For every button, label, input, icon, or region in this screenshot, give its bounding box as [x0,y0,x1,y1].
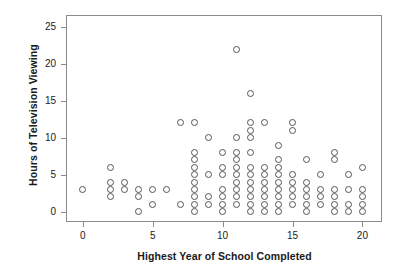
data-point [331,208,338,215]
data-point [331,156,338,163]
data-point [345,201,352,208]
data-point [247,119,254,126]
data-point [107,193,114,200]
data-point [107,186,114,193]
y-tick-label: 5 [36,170,56,180]
y-axis-label: Hours of Television Viewing [22,4,44,226]
data-point [135,208,142,215]
data-point [163,186,170,193]
data-point [303,156,310,163]
data-point [289,127,296,134]
data-point [107,164,114,171]
data-point [205,201,212,208]
data-point [233,149,240,156]
data-point [303,186,310,193]
data-point [247,127,254,134]
data-point [275,142,282,149]
data-point [317,201,324,208]
data-point [247,186,254,193]
data-point [359,193,366,200]
data-point [275,179,282,186]
data-point [275,186,282,193]
data-point [289,186,296,193]
data-point [177,201,184,208]
data-point [233,156,240,163]
y-tick-label: 20 [36,59,56,69]
data-point [359,201,366,208]
data-point [331,149,338,156]
data-point [261,186,268,193]
data-point [233,134,240,141]
data-point [261,171,268,178]
data-point [191,156,198,163]
data-point [331,186,338,193]
y-tick-mark [61,212,66,213]
x-tick-label: 20 [351,231,373,241]
data-point [149,201,156,208]
data-point [233,179,240,186]
data-point [303,193,310,200]
data-point [261,201,268,208]
data-point [219,164,226,171]
data-point [121,186,128,193]
data-point [261,164,268,171]
data-point [359,208,366,215]
data-point [233,171,240,178]
data-point [191,149,198,156]
data-point [191,179,198,186]
data-point [247,149,254,156]
data-point [261,119,268,126]
data-point [275,164,282,171]
scatter-plot-figure: Hours of Television Viewing 0510152025 0… [0,0,401,277]
data-point [261,179,268,186]
x-tick-mark [362,222,363,227]
data-point [233,46,240,53]
data-point [233,186,240,193]
x-tick-label: 0 [72,231,94,241]
data-point [233,164,240,171]
x-tick-mark [153,222,154,227]
data-point [191,201,198,208]
data-point [79,186,86,193]
data-point [135,186,142,193]
x-tick-label: 10 [212,231,234,241]
data-point [247,193,254,200]
y-tick-mark [61,138,66,139]
data-point [275,156,282,163]
data-point [191,186,198,193]
data-point [289,193,296,200]
data-point [219,186,226,193]
data-point [121,179,128,186]
y-tick-label: 0 [36,207,56,217]
data-point [191,193,198,200]
x-tick-mark [223,222,224,227]
data-point [303,208,310,215]
y-tick-mark [61,27,66,28]
data-point [219,171,226,178]
data-point [247,134,254,141]
data-point [317,171,324,178]
data-point [275,201,282,208]
data-point [233,201,240,208]
data-point [331,201,338,208]
plot-area [66,15,382,222]
data-point [289,179,296,186]
data-point [303,201,310,208]
data-point [289,201,296,208]
data-point [359,164,366,171]
data-point [135,193,142,200]
data-point [289,171,296,178]
data-point [345,186,352,193]
data-point [359,186,366,193]
data-point [275,208,282,215]
y-tick-mark [61,101,66,102]
data-point [331,193,338,200]
data-point [317,186,324,193]
data-point [233,193,240,200]
data-point [149,186,156,193]
data-point [219,208,226,215]
data-point [303,179,310,186]
data-point [247,179,254,186]
x-tick-mark [293,222,294,227]
data-point [191,164,198,171]
